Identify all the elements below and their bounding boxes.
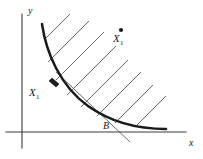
boundary-point-label: X1	[29, 87, 39, 101]
interior-point-label-subscript: 1	[120, 39, 124, 46]
tangency-point-label-text: B	[103, 120, 109, 131]
interior-point-label: X1	[113, 33, 123, 47]
tangency-point-label: B	[103, 121, 109, 131]
figure-canvas	[0, 0, 203, 159]
boundary-point-label-text: X	[29, 86, 36, 98]
y-axis-label-text: y	[28, 5, 32, 16]
boundary-point-label-subscript: 1	[36, 93, 40, 100]
x-axis-label: x	[189, 138, 193, 148]
hatch-line	[67, 46, 116, 95]
hatch-line	[115, 85, 153, 123]
interior-point-label-text: X	[113, 32, 120, 44]
hatch-line	[44, 14, 70, 40]
hatch-line	[97, 72, 141, 116]
hatch-group	[44, 14, 166, 127]
hatch-line	[56, 32, 104, 80]
figure-container: y x X1 X1 B	[0, 0, 203, 159]
hatch-line	[81, 60, 128, 107]
hatch-line	[48, 21, 89, 62]
boundary-curve	[42, 24, 166, 129]
x-axis-label-text: x	[189, 137, 193, 148]
y-axis-label: y	[28, 6, 32, 16]
hatch-line	[135, 96, 166, 127]
boundary-point-marker	[49, 78, 59, 87]
